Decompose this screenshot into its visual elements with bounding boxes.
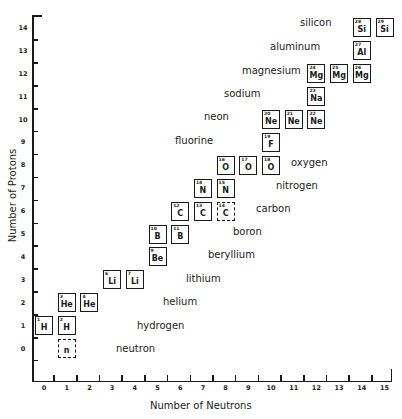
- y-tick-mark: [32, 268, 38, 270]
- nuclide-box-n14: 14N: [194, 179, 212, 198]
- y-tick-label: 3: [16, 276, 30, 284]
- x-tick-mark: [326, 375, 328, 381]
- mass-number: 28: [355, 19, 361, 24]
- element-symbol: Ne: [308, 117, 324, 126]
- mass-number: 12: [173, 203, 179, 208]
- nuclide-box-li7: 7Li: [126, 270, 144, 289]
- mass-number: 18: [264, 157, 270, 162]
- x-tick-mark: [53, 375, 55, 381]
- mass-number: 23: [309, 88, 315, 93]
- element-symbol: Li: [127, 277, 143, 286]
- nuclide-box-mg26: 26Mg: [353, 64, 371, 83]
- element-symbol: He: [81, 300, 97, 309]
- mass-number: 26: [355, 65, 361, 70]
- mass-number: 14: [219, 203, 225, 208]
- x-tick-label: 15: [378, 384, 392, 392]
- nuclide-box-he4: 4He: [80, 293, 98, 312]
- element-symbol: H: [59, 323, 75, 332]
- nuclide-box-he3: 3He: [58, 293, 76, 312]
- nuclide-box-b11: 11B: [171, 225, 189, 244]
- element-symbol: Mg: [331, 71, 347, 80]
- y-tick-label: 11: [16, 93, 30, 101]
- label-magnesium: magnesium: [242, 65, 301, 76]
- mass-number: 7: [128, 271, 131, 276]
- label-silicon: silicon: [300, 17, 332, 28]
- x-axis-title: Number of Neutrons: [150, 400, 252, 411]
- y-axis-top-cap: [32, 15, 42, 17]
- element-symbol: O: [263, 163, 279, 172]
- mass-number: 11: [173, 226, 179, 231]
- x-tick-mark: [303, 375, 305, 381]
- x-tick-mark: [167, 375, 169, 381]
- label-oxygen: oxygen: [291, 157, 327, 168]
- x-tick-label: 2: [82, 384, 96, 392]
- nuclide-box-ne20: 20Ne: [262, 110, 280, 129]
- x-tick-mark: [371, 375, 373, 381]
- x-tick-mark: [280, 375, 282, 381]
- x-tick-label: 10: [264, 384, 278, 392]
- x-tick-mark: [258, 375, 260, 381]
- element-symbol: O: [240, 163, 256, 172]
- element-symbol: Mg: [354, 71, 370, 80]
- nuclide-box-na23: 23Na: [307, 87, 325, 106]
- element-symbol: Na: [308, 94, 324, 103]
- x-tick-label: 8: [219, 384, 233, 392]
- element-symbol: B: [150, 232, 166, 241]
- x-tick-mark: [99, 375, 101, 381]
- x-tick-label: 9: [241, 384, 255, 392]
- nuclide-box-mg25: 25Mg: [330, 64, 348, 83]
- y-tick-mark: [32, 85, 38, 87]
- y-tick-label: 2: [16, 299, 30, 307]
- y-axis-title: Number of Protons: [7, 146, 18, 246]
- element-symbol: C: [195, 209, 211, 218]
- nuclide-box-mg24: 24Mg: [307, 64, 325, 83]
- mass-number: 20: [264, 111, 270, 116]
- mass-number: 10: [151, 226, 157, 231]
- mass-number: 4: [82, 294, 85, 299]
- element-symbol: C: [172, 209, 188, 218]
- y-tick-mark: [32, 154, 38, 156]
- y-tick-mark: [32, 131, 38, 133]
- mass-number: 19: [264, 134, 270, 139]
- mass-number: 27: [355, 42, 361, 47]
- x-tick-label: 7: [196, 384, 210, 392]
- y-tick-label: 10: [16, 116, 30, 124]
- x-tick-label: 13: [332, 384, 346, 392]
- x-tick-label: 6: [173, 384, 187, 392]
- nuclide-box-o18: 18O: [262, 156, 280, 175]
- mass-number: 17: [241, 157, 247, 162]
- label-carbon: carbon: [256, 203, 291, 214]
- element-symbol: Si: [354, 25, 370, 34]
- y-tick-label: 0: [16, 345, 30, 353]
- nuclide-box-ne21: 21Ne: [285, 110, 303, 129]
- element-symbol: Ne: [263, 117, 279, 126]
- element-symbol: F: [263, 140, 279, 149]
- label-neon: neon: [204, 111, 229, 122]
- x-tick-label: 11: [287, 384, 301, 392]
- nuclide-box-h1: 1H: [35, 316, 53, 335]
- nuclide-box-al27: 27Al: [353, 41, 371, 60]
- nuclide-chart: 01234567891011121314 0123456789101112131…: [0, 0, 402, 419]
- element-symbol: C: [218, 209, 234, 218]
- label-hydrogen: hydrogen: [137, 320, 184, 331]
- element-symbol: H: [36, 323, 52, 332]
- mass-number: 6: [105, 271, 108, 276]
- nuclide-box-n: n: [58, 339, 76, 358]
- label-beryllium: beryllium: [208, 249, 255, 260]
- nuclide-box-n15: 15N: [217, 179, 235, 198]
- mass-number: 9: [151, 248, 154, 253]
- x-tick-mark: [190, 375, 192, 381]
- mass-number: 24: [309, 65, 315, 70]
- y-tick-mark: [32, 337, 38, 339]
- y-tick-label: 6: [16, 207, 30, 215]
- y-tick-mark: [32, 108, 38, 110]
- mass-number: 1: [37, 317, 40, 322]
- nuclide-box-be9: 9Be: [149, 247, 167, 266]
- element-symbol: n: [59, 346, 75, 355]
- mass-number: 25: [332, 65, 338, 70]
- nuclide-box-f19: 19F: [262, 133, 280, 152]
- element-symbol: Ne: [286, 117, 302, 126]
- element-symbol: O: [218, 163, 234, 172]
- element-symbol: Li: [104, 277, 120, 286]
- y-tick-mark: [32, 62, 38, 64]
